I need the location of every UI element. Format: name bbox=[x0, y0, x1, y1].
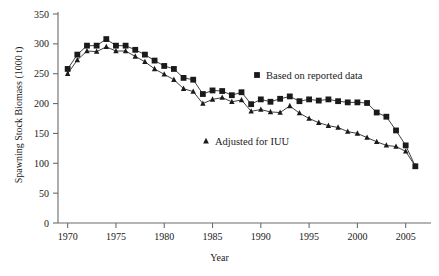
data-point-marker bbox=[84, 48, 89, 53]
data-point-marker bbox=[239, 89, 245, 95]
data-point-marker bbox=[345, 99, 351, 105]
data-point-marker bbox=[84, 43, 90, 49]
data-point-marker bbox=[219, 88, 225, 94]
x-tick-label: 1985 bbox=[203, 231, 223, 242]
data-point-marker bbox=[190, 77, 196, 83]
x-tick-label: 1975 bbox=[106, 231, 126, 242]
data-point-marker bbox=[152, 58, 158, 64]
data-point-marker bbox=[277, 96, 283, 102]
data-series bbox=[65, 44, 418, 169]
legend-label: Adjusted for IUU bbox=[215, 136, 289, 147]
y-tick-label: 300 bbox=[34, 38, 49, 49]
data-point-marker bbox=[258, 96, 264, 102]
data-point-marker bbox=[287, 94, 293, 100]
x-tick-label: 1980 bbox=[154, 231, 174, 242]
y-tick-label: 250 bbox=[34, 68, 49, 79]
data-point-marker bbox=[393, 128, 399, 134]
x-tick-label: 2000 bbox=[347, 231, 367, 242]
data-point-marker bbox=[268, 99, 274, 105]
data-point-marker bbox=[142, 52, 148, 58]
y-tick-label: 50 bbox=[39, 188, 49, 199]
data-point-marker bbox=[383, 114, 389, 120]
data-point-marker bbox=[354, 99, 360, 105]
legend-label: Based on reported data bbox=[266, 70, 363, 81]
data-point-marker bbox=[113, 43, 119, 49]
data-point-marker bbox=[181, 75, 187, 81]
series-line bbox=[68, 47, 416, 166]
y-tick-label: 150 bbox=[34, 128, 49, 139]
data-point-marker bbox=[210, 88, 216, 94]
series-line bbox=[68, 39, 416, 166]
y-tick-label: 200 bbox=[34, 98, 49, 109]
data-series-group bbox=[65, 36, 418, 169]
data-point-marker bbox=[248, 101, 254, 107]
data-point-marker bbox=[229, 92, 235, 98]
data-point-marker bbox=[200, 91, 206, 97]
data-point-marker bbox=[306, 115, 311, 120]
data-series bbox=[65, 36, 418, 169]
data-point-marker bbox=[123, 43, 129, 49]
data-point-marker bbox=[306, 96, 312, 102]
data-point-marker bbox=[132, 47, 138, 53]
data-point-marker bbox=[219, 94, 224, 99]
x-tick-label: 1995 bbox=[299, 231, 319, 242]
data-point-marker bbox=[297, 110, 302, 115]
data-point-marker bbox=[142, 59, 147, 64]
data-point-marker bbox=[94, 43, 100, 49]
data-point-marker bbox=[171, 77, 176, 82]
data-point-marker bbox=[326, 96, 332, 102]
chart-container: Spawning Stock Biomass (1000 t) Year 050… bbox=[0, 0, 439, 276]
data-point-marker bbox=[152, 66, 157, 71]
data-point-marker bbox=[162, 71, 167, 76]
x-tick-label: 2005 bbox=[396, 231, 416, 242]
data-point-marker bbox=[171, 66, 177, 72]
data-point-marker bbox=[133, 53, 138, 58]
plot-area: 050100150200250300350 197019751980198519… bbox=[0, 0, 439, 276]
data-point-marker bbox=[364, 100, 370, 106]
legend-item: Adjusted for IUU bbox=[203, 136, 289, 147]
data-point-marker bbox=[403, 142, 409, 148]
data-point-marker bbox=[335, 98, 341, 104]
y-tick-label: 0 bbox=[44, 218, 49, 229]
chart-legend: Based on reported dataAdjusted for IUU bbox=[203, 70, 363, 147]
x-axis-ticks: 19701975198019851990199520002005 bbox=[58, 223, 416, 242]
data-point-marker bbox=[316, 98, 322, 104]
y-axis-ticks: 050100150200250300350 bbox=[34, 9, 58, 229]
data-point-marker bbox=[297, 98, 303, 104]
data-point-marker bbox=[287, 103, 292, 108]
x-tick-label: 1990 bbox=[251, 231, 271, 242]
y-tick-label: 350 bbox=[34, 9, 49, 20]
data-point-marker bbox=[374, 110, 380, 116]
y-tick-label: 100 bbox=[34, 158, 49, 169]
data-point-marker bbox=[258, 106, 263, 111]
legend-item: Based on reported data bbox=[254, 70, 363, 81]
data-point-marker bbox=[203, 138, 209, 144]
data-point-marker bbox=[74, 52, 80, 58]
data-point-marker bbox=[239, 97, 244, 102]
data-point-marker bbox=[254, 72, 260, 78]
data-point-marker bbox=[161, 63, 167, 69]
data-point-marker bbox=[103, 36, 109, 42]
data-point-marker bbox=[104, 44, 109, 49]
x-tick-label: 1970 bbox=[58, 231, 78, 242]
